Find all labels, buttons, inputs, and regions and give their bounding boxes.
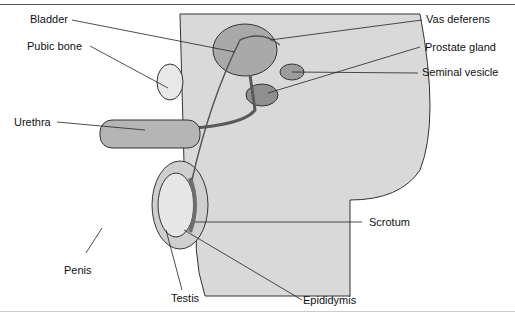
bladder-shape xyxy=(213,24,277,76)
label-penis: Penis xyxy=(64,264,92,276)
label-urethra: Urethra xyxy=(14,116,51,128)
label-pubic-bone: Pubic bone xyxy=(27,40,82,52)
pubic-bone-shape xyxy=(157,64,183,100)
label-epididymis: Epididymis xyxy=(303,294,356,306)
label-testis: Testis xyxy=(171,292,199,304)
label-bladder: Bladder xyxy=(30,13,68,25)
penis-shape xyxy=(100,120,200,148)
testis-shape xyxy=(158,173,194,237)
label-vas-deferens: Vas deferens xyxy=(426,13,490,25)
label-scrotum: Scrotum xyxy=(369,216,410,228)
label-prostate-gland: Prostate gland xyxy=(425,41,496,53)
label-seminal-vesicle: Seminal vesicle xyxy=(422,66,498,78)
bottom-rule xyxy=(0,311,515,312)
